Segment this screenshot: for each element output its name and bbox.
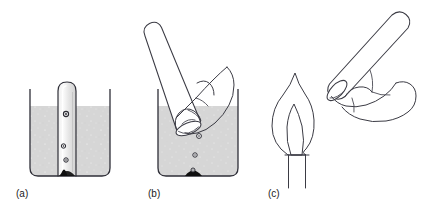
diagram-canvas: (a) <box>0 0 426 217</box>
panel-c-label: (c) <box>268 188 280 199</box>
panel-a-label: (a) <box>16 188 28 199</box>
figure-root: (a) <box>0 0 426 217</box>
panel-b-label: (b) <box>148 188 160 199</box>
